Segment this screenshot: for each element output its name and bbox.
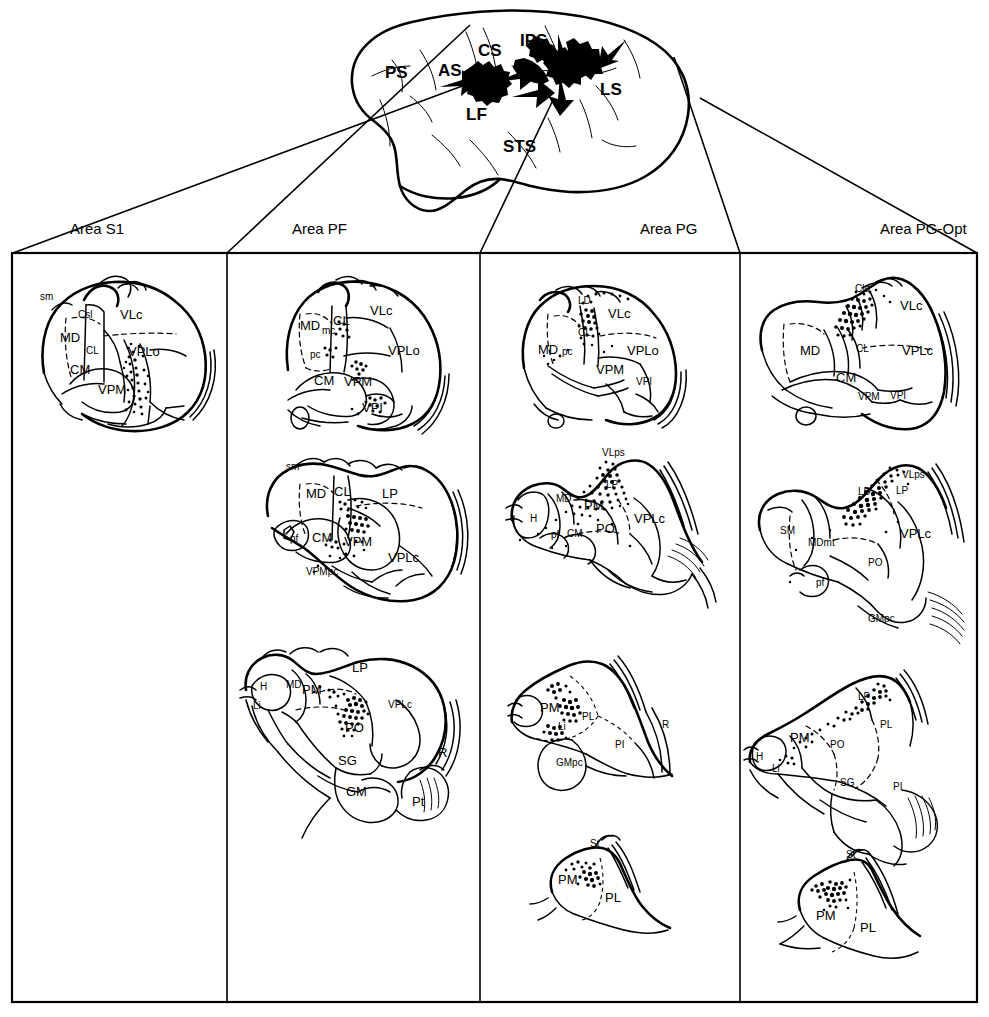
- brain-label-IPS: IPS: [520, 31, 547, 50]
- label-PO: PO: [868, 557, 883, 568]
- figure-container: .o{fill:none;stroke:#000;stroke-width:2.…: [0, 0, 989, 1017]
- label-R: R: [662, 719, 669, 730]
- label-Li: Li: [772, 763, 780, 774]
- label-CM: CM: [567, 528, 583, 539]
- label-PO: PO: [596, 521, 615, 536]
- label-GM: GM: [346, 784, 367, 799]
- label-PM: PM: [790, 730, 810, 745]
- label-CM: CM: [312, 530, 332, 545]
- label-pf: pf: [290, 533, 299, 544]
- label-VPLc: VPLc: [388, 550, 420, 565]
- label-CM: CM: [836, 370, 856, 385]
- label-VPLo: VPLo: [627, 343, 659, 358]
- label-PO: PO: [345, 720, 364, 735]
- label-PM: PM: [540, 700, 560, 715]
- label-SM: SM: [780, 525, 795, 536]
- label-MDmt: MDmt: [808, 537, 835, 548]
- section-pg-3: PM PL Li GMpc PI R: [508, 656, 672, 790]
- brain-label-CS: CS: [478, 41, 502, 60]
- label-VPLc: VPLc: [388, 699, 412, 710]
- label-PM: PM: [558, 872, 578, 887]
- label-CM: CM: [314, 373, 334, 388]
- section-pf-2: sm MD CL LP pf CM VPM VPMpc VPLc: [267, 459, 468, 602]
- section-pgopt-4: St PM PL: [778, 849, 920, 958]
- label-sm: sm: [40, 291, 53, 302]
- dense-label-pgopt1: [834, 289, 891, 338]
- label-St: St: [846, 849, 856, 860]
- label-MD: MD: [538, 342, 558, 357]
- brain-label-PS: PS: [385, 63, 408, 82]
- label-PM: PM: [816, 908, 836, 923]
- label-MD: MD: [60, 330, 80, 345]
- label-VLc: VLc: [608, 306, 631, 321]
- label-VPLc: VPLc: [634, 511, 666, 526]
- column-header-pg: Area PG: [640, 220, 698, 237]
- label-PO: PO: [830, 739, 845, 750]
- section-pg-4: St PM PL: [530, 835, 670, 933]
- label-LP: LP: [858, 691, 871, 702]
- label-LD: LD: [578, 295, 591, 306]
- label-VPM: VPM: [858, 391, 880, 402]
- label-PM: PM: [302, 682, 322, 697]
- label-H: H: [756, 751, 763, 762]
- column-header-s1: Area S1: [70, 220, 124, 237]
- brain-label-LS: LS: [600, 80, 622, 99]
- label-VPMpc: VPMpc: [306, 566, 338, 577]
- brain-lateral-view: PS AS CS IPS LF STS LS: [352, 10, 689, 211]
- label-pf: pf: [551, 529, 560, 540]
- label-LP: LP: [352, 660, 368, 675]
- label-Pt: Pt: [412, 794, 425, 809]
- label-pf: pf: [816, 577, 825, 588]
- label-VPLc: VPLc: [900, 526, 932, 541]
- label-MD: MD: [556, 493, 572, 504]
- label-PL: PL: [880, 719, 893, 730]
- label-LP: LP: [896, 485, 909, 496]
- brain-label-LF: LF: [466, 105, 487, 124]
- label-SG: SG: [840, 777, 855, 788]
- label-PI: PI: [893, 781, 902, 792]
- label-VPLc: VPLc: [902, 343, 934, 358]
- section-pf-3: H MD PM LP Li VPLc PO SG GM Pt R: [240, 648, 460, 838]
- label-VLps: VLps: [902, 469, 925, 480]
- section-pg-1: LD VLc CL MD pc VPLo VPM VPI: [523, 286, 686, 428]
- label-H: H: [260, 681, 267, 692]
- figure-svg: .o{fill:none;stroke:#000;stroke-width:2.…: [0, 0, 989, 1017]
- label-SG: SG: [338, 753, 357, 768]
- label-CL: CL: [333, 313, 350, 328]
- label-PL: PL: [605, 890, 621, 905]
- label-Cld: Cld: [855, 283, 870, 294]
- label-R: R: [438, 745, 447, 760]
- label-PM: PM: [584, 498, 604, 513]
- section-pf-1: MD mc pc CL VLc VPLo CM VPM VPI: [287, 277, 449, 434]
- label-PL: PL: [582, 711, 595, 722]
- column-header-pf: Area PF: [292, 220, 347, 237]
- label-LD: LD: [858, 486, 871, 497]
- label-CL: CL: [334, 484, 351, 499]
- column-header-pgopt: Area PG-Opt: [880, 220, 968, 237]
- label-VPM: VPM: [596, 362, 624, 377]
- label-PL: PL: [860, 920, 876, 935]
- label-GMpc: GMpc: [556, 757, 583, 768]
- label-Li: Li: [253, 700, 261, 711]
- label-LP: LP: [382, 486, 398, 501]
- label-VPM: VPM: [98, 382, 126, 397]
- label-VPI: VPI: [362, 400, 383, 415]
- label-VPLo: VPLo: [128, 344, 160, 359]
- label-Li: Li: [558, 721, 566, 732]
- label-LP: LP: [606, 479, 619, 490]
- dense-label-pgopt4: [810, 879, 851, 912]
- label-VLc: VLc: [120, 307, 143, 322]
- brain-label-AS: AS: [438, 61, 462, 80]
- label-GMpc: GMpc: [868, 613, 895, 624]
- label-MD: MD: [306, 486, 326, 501]
- label-CL: CL: [856, 343, 869, 354]
- label-VPI: VPI: [890, 390, 906, 401]
- section-s1-1: sm Csl MD VLc CL VPLo CM VPM: [40, 276, 215, 431]
- label-sm: sm: [286, 461, 299, 472]
- label-VPM: VPM: [344, 534, 372, 549]
- label-MD: MD: [800, 343, 820, 358]
- label-PI: PI: [615, 739, 624, 750]
- label-VLc: VLc: [900, 298, 923, 313]
- label-CL: CL: [578, 327, 591, 338]
- label-MD: MD: [286, 679, 302, 690]
